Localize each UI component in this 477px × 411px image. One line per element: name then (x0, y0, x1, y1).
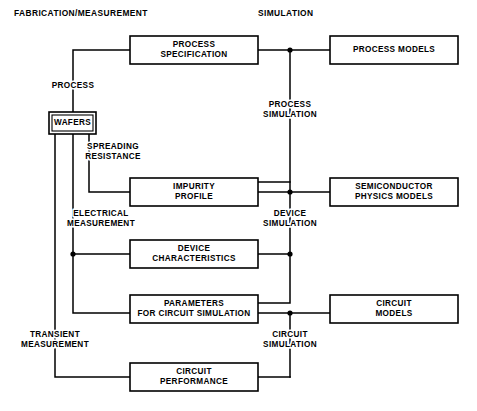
circuit-performance-box-label-line-1: PERFORMANCE (160, 377, 228, 386)
circuit-models-box-label-line-0: CIRCUIT (376, 299, 412, 308)
spreading-resistance-edge-label-line-1: RESISTANCE (85, 152, 141, 161)
circuit-performance-box: CIRCUITPERFORMANCE (130, 363, 258, 391)
process-simulation-junction-dot (287, 47, 292, 52)
wafers-box: WAFERS (49, 112, 96, 134)
circuit-models-box: CIRCUITMODELS (330, 295, 458, 323)
electrical-measurement-edge-label-line-1: MEASUREMENT (67, 219, 135, 228)
parameters-for-circuit-simulation-box-label-line-0: PARAMETERS (164, 299, 224, 308)
transient-measurement-edge-label-line-1: MEASUREMENT (21, 340, 89, 349)
process-specification-box-label-line-0: PROCESS (173, 40, 216, 49)
electrical-measurement-edge-label-line-0: ELECTRICAL (73, 209, 128, 218)
circuit-simulation-edge-label-line-1: SIMULATION (263, 340, 317, 349)
process-simulation-edge-label-line-1: SIMULATION (263, 110, 317, 119)
device-characteristics-left-junction-dot (70, 251, 75, 256)
process-models-box: PROCESS MODELS (330, 36, 458, 64)
process-models-box-label-line-0: PROCESS MODELS (353, 45, 435, 54)
device-characteristics-box-label-line-0: DEVICE (178, 244, 211, 253)
impurity-profile-box-label-line-0: IMPURITY (173, 182, 215, 191)
spreading-resistance-edge-label-line-0: SPREADING (87, 142, 139, 151)
semiconductor-physics-models-box: SEMICONDUCTORPHYSICS MODELS (330, 178, 458, 206)
transient-measurement-edge-label-line-0: TRANSIENT (30, 330, 80, 339)
device-characteristics-box: DEVICECHARACTERISTICS (130, 240, 258, 268)
process-edge-label-line-0: PROCESS (52, 81, 95, 90)
semiconductor-physics-models-box-label-line-1: PHYSICS MODELS (355, 192, 433, 201)
parameters-for-circuit-simulation-box-label-line-1: FOR CIRCUIT SIMULATION (137, 309, 250, 318)
circuit-simulation-junction-dot (287, 310, 292, 315)
device-simulation-edge-label-line-1: SIMULATION (263, 219, 317, 228)
impurity-profile-box: IMPURITYPROFILE (130, 178, 258, 206)
device-characteristics-right-junction-dot (287, 251, 292, 256)
process-simulation-edge-label-line-0: PROCESS (269, 100, 312, 109)
circuit-simulation-edge-label-line-0: CIRCUIT (272, 330, 308, 339)
device-characteristics-box-label-line-1: CHARACTERISTICS (152, 254, 236, 263)
heading-simulation: SIMULATION (258, 8, 313, 18)
electrical-to-parameters-connector (73, 254, 130, 313)
flow-diagram-canvas: PROCESSSPECIFICATIONPROCESS MODELSWAFERS… (0, 0, 477, 411)
impurity-profile-box-label-line-1: PROFILE (175, 192, 213, 201)
heading-fabrication: FABRICATION/MEASUREMENT (14, 8, 148, 18)
parameters-for-circuit-simulation-box: PARAMETERSFOR CIRCUIT SIMULATION (130, 295, 258, 323)
semiconductor-physics-models-box-label-line-0: SEMICONDUCTOR (355, 182, 433, 191)
flow-diagram-root: PROCESSSPECIFICATIONPROCESS MODELSWAFERS… (0, 0, 477, 411)
column-heading-layer: FABRICATION/MEASUREMENTSIMULATION (14, 8, 313, 18)
device-simulation-edge-label-line-0: DEVICE (274, 209, 307, 218)
circuit-performance-box-label-line-0: CIRCUIT (176, 367, 212, 376)
wafers-box-label-line-0: WAFERS (54, 118, 91, 127)
process-specification-box: PROCESSSPECIFICATION (130, 36, 258, 64)
process-specification-box-label-line-1: SPECIFICATION (160, 50, 227, 59)
parameters-top-right-connector (258, 254, 290, 303)
circuit-models-box-label-line-1: MODELS (375, 309, 412, 318)
device-simulation-junction-dot (287, 189, 292, 194)
